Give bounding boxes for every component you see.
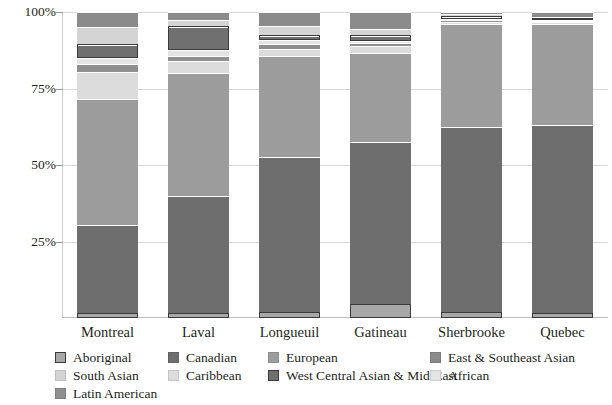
y-axis-tick-mark [56, 89, 63, 90]
bar-segment[interactable] [350, 43, 411, 45]
y-axis-tick-label-3: 25% [10, 234, 56, 250]
legend-swatch-icon [55, 388, 66, 399]
legend-swatch-icon [168, 352, 179, 363]
bar-segment[interactable] [168, 61, 229, 73]
bar-laval[interactable] [168, 12, 229, 318]
x-axis-tick-label-5: Quebec [540, 324, 584, 341]
bar-segment[interactable] [77, 225, 138, 314]
bar-segment[interactable] [259, 40, 320, 44]
legend-item[interactable]: African [430, 369, 489, 383]
legend-item[interactable]: East & Southeast Asian [430, 351, 575, 365]
bar-segment[interactable] [350, 304, 411, 318]
legend-item[interactable]: Canadian [168, 351, 237, 365]
bar-segment[interactable] [441, 22, 502, 24]
gridline [62, 12, 608, 13]
bar-segment[interactable] [532, 313, 593, 318]
bar-montreal[interactable] [77, 12, 138, 318]
bar-segment[interactable] [168, 26, 229, 50]
y-axis-tick-mark [56, 12, 63, 13]
legend-item[interactable]: Caribbean [168, 369, 241, 383]
x-axis-tick-label-2: Longueuil [260, 324, 320, 341]
bar-segment[interactable] [77, 64, 138, 72]
bar-segment[interactable] [168, 12, 229, 20]
bar-segment[interactable] [350, 12, 411, 29]
bar-segment[interactable] [259, 157, 320, 312]
legend-item[interactable]: Aboriginal [55, 351, 132, 365]
y-axis-tick-mark [56, 242, 63, 243]
stacked-bar-chart: 100%75%50%25% MontrealLavalLongueuilGati… [0, 0, 612, 405]
bar-gatineau[interactable] [350, 12, 411, 318]
legend-item[interactable]: Latin American [55, 387, 157, 401]
bar-segment[interactable] [532, 12, 593, 17]
bar-segment[interactable] [259, 35, 320, 41]
legend-swatch-icon [168, 370, 179, 381]
bar-segment[interactable] [441, 12, 502, 14]
bar-segment[interactable] [441, 24, 502, 127]
x-axis-tick-label-0: Montreal [81, 324, 134, 341]
bar-segment[interactable] [532, 22, 593, 24]
legend-swatch-icon [268, 370, 279, 381]
bar-segment[interactable] [77, 99, 138, 224]
legend-label: Aboriginal [73, 351, 132, 365]
x-axis-tick-label-4: Sherbrooke [438, 324, 505, 341]
bar-segment[interactable] [259, 56, 320, 157]
bar-segment[interactable] [168, 196, 229, 314]
legend-swatch-icon [268, 352, 279, 363]
legend-label: European [286, 351, 338, 365]
chart-legend: AboriginalSouth AsianLatin AmericanCanad… [0, 349, 612, 401]
bar-segment[interactable] [168, 20, 229, 26]
bar-segment[interactable] [77, 12, 138, 27]
legend-item[interactable]: South Asian [55, 369, 139, 383]
x-axis-tick-label-1: Laval [182, 324, 215, 341]
y-axis-tick-label-1: 75% [10, 81, 56, 97]
bar-quebec[interactable] [532, 12, 593, 318]
bar-segment[interactable] [168, 50, 229, 56]
bar-segment[interactable] [350, 142, 411, 304]
bar-segment[interactable] [350, 41, 411, 43]
plot-area [62, 12, 608, 318]
gridline [62, 89, 608, 90]
bar-segment[interactable] [77, 72, 138, 100]
bar-segment[interactable] [441, 312, 502, 318]
y-axis-tick-label-0: 100% [10, 4, 56, 20]
bar-segment[interactable] [441, 19, 502, 21]
bar-segment[interactable] [350, 53, 411, 142]
bar-segment[interactable] [259, 26, 320, 35]
bar-sherbrooke[interactable] [441, 12, 502, 318]
bar-segment[interactable] [77, 58, 138, 64]
bar-segment[interactable] [168, 56, 229, 61]
legend-label: South Asian [73, 369, 139, 383]
legend-item[interactable]: European [268, 351, 338, 365]
bar-segment[interactable] [259, 312, 320, 318]
bar-segment[interactable] [168, 73, 229, 195]
bar-segment[interactable] [350, 35, 411, 41]
y-axis-tick-label-2: 50% [10, 157, 56, 173]
legend-label: Caribbean [186, 369, 241, 383]
bar-segment[interactable] [532, 125, 593, 313]
legend-swatch-icon [430, 352, 441, 363]
bar-segment[interactable] [168, 313, 229, 318]
bar-segment[interactable] [441, 20, 502, 22]
bar-segment[interactable] [259, 49, 320, 57]
bar-segment[interactable] [77, 27, 138, 44]
bar-longueuil[interactable] [259, 12, 320, 318]
bar-segment[interactable] [532, 24, 593, 125]
bar-segment[interactable] [532, 18, 593, 20]
x-axis-line [62, 317, 608, 318]
x-axis-tick-label-3: Gatineau [354, 324, 406, 341]
bar-segment[interactable] [77, 313, 138, 318]
legend-label: East & Southeast Asian [448, 351, 575, 365]
legend-label: Latin American [73, 387, 157, 401]
bar-segment[interactable] [350, 46, 411, 54]
bar-segment[interactable] [350, 29, 411, 35]
bar-segment[interactable] [259, 44, 320, 49]
legend-label: African [448, 369, 489, 383]
bar-segment[interactable] [441, 16, 502, 18]
bar-segment[interactable] [77, 44, 138, 58]
y-axis-tick-mark [56, 165, 63, 166]
bar-segment[interactable] [441, 127, 502, 312]
legend-label: Canadian [186, 351, 237, 365]
bar-segment[interactable] [441, 14, 502, 16]
bar-segment[interactable] [259, 12, 320, 26]
legend-item[interactable]: West Central Asian & Mid-East [268, 369, 457, 383]
